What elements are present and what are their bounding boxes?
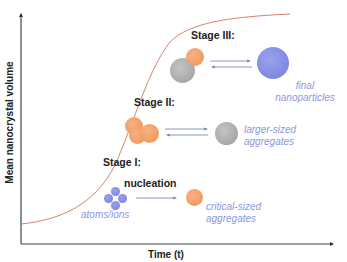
y-axis-label: Mean nanocrystal volume <box>4 58 15 188</box>
stage1-product-line1: critical-sized <box>206 201 261 213</box>
x-axis-arrowhead-icon <box>330 242 334 246</box>
stage2-product-line2: aggregates <box>244 136 296 148</box>
final-nanoparticle-icon <box>257 47 289 79</box>
stage1-product-line2: aggregates <box>206 213 261 225</box>
stage2-equilibrium-arrows-icon <box>165 128 208 137</box>
stage3-product-line1: final <box>260 80 347 92</box>
stage1-label: Stage I: <box>103 156 141 168</box>
larger-aggregate-icon <box>215 122 238 145</box>
stage3-label: Stage III: <box>191 29 235 41</box>
orange-particle-icon <box>140 124 159 143</box>
nucleation-label: nucleation <box>124 177 177 189</box>
orange-nucleus-icon <box>186 48 204 66</box>
x-axis-label: Time (t) <box>148 249 184 260</box>
y-axis-arrowhead-icon <box>19 13 23 17</box>
stage3-product-label: final nanoparticles <box>260 80 347 104</box>
stage1-forward-arrow-icon <box>136 197 177 200</box>
critical-aggregate-icon <box>186 189 203 206</box>
stage2-label: Stage II: <box>134 96 175 108</box>
stage2-product-line1: larger-sized <box>244 124 296 136</box>
stage3-product-line2: nanoparticles <box>260 92 347 104</box>
atoms-ions-label: atoms/ions <box>81 209 129 221</box>
stage1-product-label: critical-sized aggregates <box>206 201 261 225</box>
nanocrystal-growth-diagram: Mean nanocrystal volume Time (t) Stage I… <box>0 0 347 262</box>
stage2-product-label: larger-sized aggregates <box>244 124 296 148</box>
volume-curve <box>21 14 290 224</box>
stage3-equilibrium-arrows-icon <box>210 60 252 69</box>
